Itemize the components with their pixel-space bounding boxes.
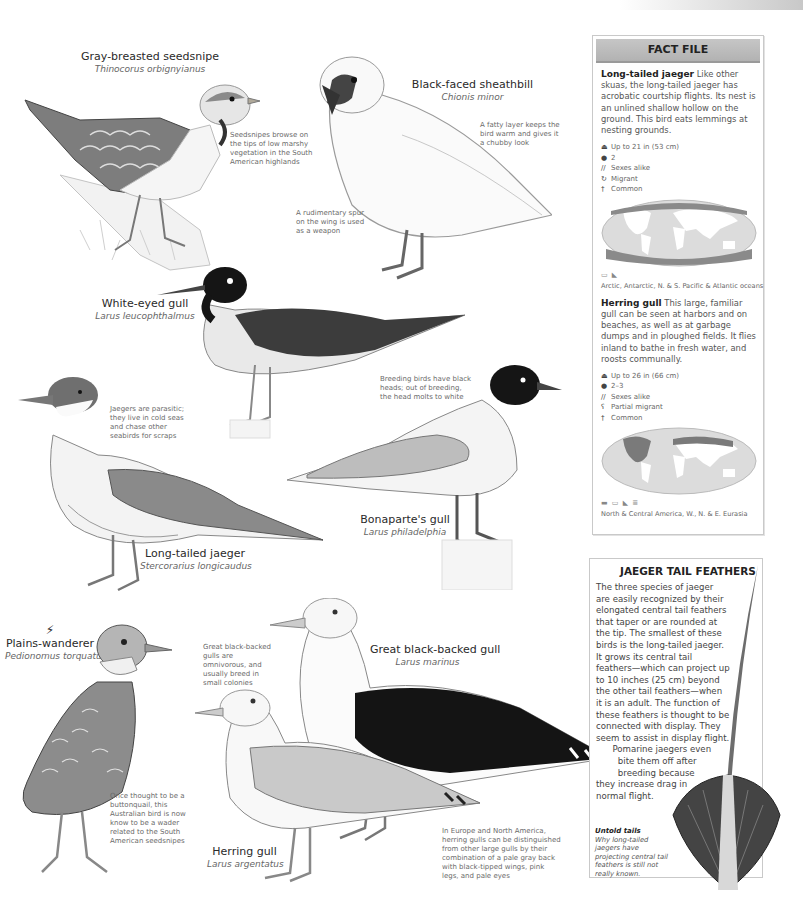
fact-eggs: ●2 xyxy=(601,153,756,164)
sheathbill-spur-note: A rudimentary spur on the wing is used a… xyxy=(296,209,368,236)
herring-gull-common-name: Herring gull xyxy=(207,845,282,858)
tail-feathers-caption-title: Untold tails xyxy=(595,827,675,836)
herring-gull-scientific-name: Larus argentatus xyxy=(207,859,282,869)
sheathbill-label: Black-faced sheathbill Chionis minor xyxy=(405,78,540,102)
fact-entry-herring-name: Herring gull xyxy=(601,298,662,308)
fact-status: †Common xyxy=(601,413,756,424)
fact-size: ⏏Up to 21 in (53 cm) xyxy=(601,142,756,153)
great-black-backed-gull-scientific-name: Larus marinus xyxy=(370,657,485,667)
fact-entry-herring-facts: ⏏Up to 26 in (66 cm) ●2–3 //Sexes alike … xyxy=(601,371,756,424)
tail-feathers-caption: Untold tails Why long-tailed jaegers hav… xyxy=(595,827,675,878)
fact-entry-jaeger-description: Long-tailed jaeger Like other skuas, the… xyxy=(601,69,756,136)
great-black-backed-gull-common-name: Great black-backed gull xyxy=(370,643,485,656)
seedsnipe-illustration xyxy=(20,80,260,275)
plains-wanderer-note: Once thought to be a buttonquail, this A… xyxy=(110,792,190,846)
fact-eggs: ●2–3 xyxy=(601,381,756,392)
great-black-backed-gull-note: Great black-backed gulls are omnivorous,… xyxy=(203,643,278,688)
sheathbill-common-name: Black-faced sheathbill xyxy=(405,78,540,91)
egg-icon: ● xyxy=(601,381,611,392)
seedsnipe-note: Seedsnipes browse on the tips of low mar… xyxy=(230,131,315,167)
bonapartes-gull-label: Bonaparte's gull Larus philadelphia xyxy=(340,513,470,537)
fact-file-title: FACT FILE xyxy=(596,39,760,63)
sheathbill-scientific-name: Chionis minor xyxy=(405,92,540,102)
long-tailed-jaeger-scientific-name: Stercorarius longicaudus xyxy=(140,561,250,571)
fact-sexes: //Sexes alike xyxy=(601,392,756,403)
bonapartes-gull-common-name: Bonaparte's gull xyxy=(340,513,470,526)
size-icon: ⏏ xyxy=(601,371,611,382)
fact-file-panel: FACT FILE Long-tailed jaeger Like other … xyxy=(592,35,764,535)
tail-feather-illustration xyxy=(668,560,783,890)
partial-migrant-icon: ʕ xyxy=(601,402,611,413)
status-icon: † xyxy=(601,184,611,195)
fact-sexes: //Sexes alike xyxy=(601,163,756,174)
fact-entry-herring-description: Herring gull This large, familiar gull c… xyxy=(601,298,756,365)
jaeger-range-map xyxy=(601,199,757,267)
herring-gull-range-text: North & Central America, W., N. & E. Eur… xyxy=(601,510,756,518)
migrant-icon: ↻ xyxy=(601,174,611,185)
fact-entry-jaeger-facts: ⏏Up to 21 in (53 cm) ●2 //Sexes alike ↻M… xyxy=(601,142,756,195)
herring-gull-habitat-icons: ▬ ▭ ◣ ≣ xyxy=(601,499,756,508)
jaeger-habitat-icons: ▭ ◣ xyxy=(601,271,756,280)
plains-wanderer-illustration xyxy=(12,622,177,887)
bonapartes-gull-illustration xyxy=(287,360,562,590)
long-tailed-jaeger-common-name: Long-tailed jaeger xyxy=(140,547,250,560)
sheathbill-fat-note: A fatty layer keeps the bird warm and gi… xyxy=(480,121,562,148)
egg-icon: ● xyxy=(601,153,611,164)
fact-status: †Common xyxy=(601,184,756,195)
herring-gull-range-map xyxy=(601,427,757,495)
status-icon: † xyxy=(601,413,611,424)
long-tailed-jaeger-label: Long-tailed jaeger Stercorarius longicau… xyxy=(140,547,250,571)
great-black-backed-gull-label: Great black-backed gull Larus marinus xyxy=(370,643,485,667)
size-icon: ⏏ xyxy=(601,142,611,153)
fact-migration: ↻Migrant xyxy=(601,174,756,185)
bonapartes-gull-scientific-name: Larus philadelphia xyxy=(340,527,470,537)
fact-size: ⏏Up to 26 in (66 cm) xyxy=(601,371,756,382)
sexes-icon: // xyxy=(601,392,611,403)
sexes-icon: // xyxy=(601,163,611,174)
fact-entry-jaeger-name: Long-tailed jaeger xyxy=(601,69,694,79)
tail-feathers-caption-text: Why long-tailed jaegers have projecting … xyxy=(595,836,668,878)
herring-gull-label: Herring gull Larus argentatus xyxy=(207,845,282,869)
seedsnipe-common-name: Gray-breasted seedsnipe xyxy=(75,50,225,63)
jaeger-range-text: Arctic, Antarctic, N. & S. Pacific & Atl… xyxy=(601,282,756,290)
long-tailed-jaeger-note: Jaegers are parasitic; they live in cold… xyxy=(110,405,190,441)
seedsnipe-label: Gray-breasted seedsnipe Thinocorus orbig… xyxy=(75,50,225,74)
seedsnipe-scientific-name: Thinocorus orbignyianus xyxy=(75,64,225,74)
herring-gull-note: In Europe and North America, herring gul… xyxy=(442,827,562,881)
page-edge-shadow xyxy=(620,0,803,10)
fact-migration: ʕPartial migrant xyxy=(601,402,756,413)
